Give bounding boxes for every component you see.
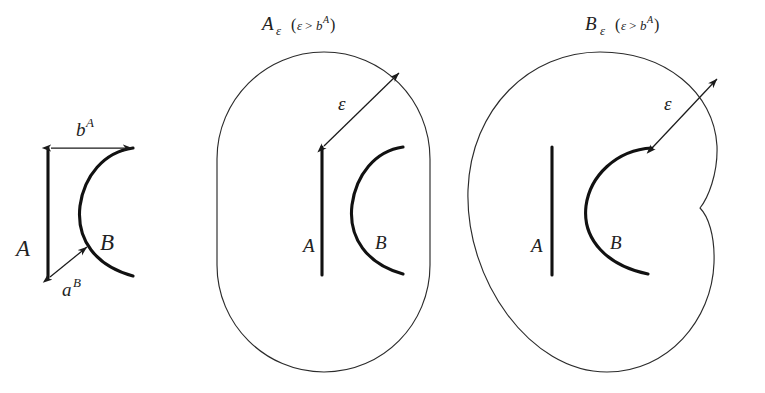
panel3-title-cond-rel: > [629,18,636,33]
panel2-title-subscript: ε [276,23,282,38]
math-diagram: A B b A a B A ε ( ε > b [0,0,765,393]
canvas-background [0,0,765,393]
panel3-title-cond-eps: ε [621,18,627,33]
panel2-title-cond-eps: ε [297,18,303,33]
panel2-title-base: A [260,13,274,34]
panel2-title-cond-sup: A [322,14,330,25]
panel2-title-paren-open: ( [291,16,296,34]
panel1-label-ab-base: a [62,279,72,300]
panel3-title-paren-open: ( [615,16,620,34]
panel2-label-epsilon: ε [338,93,346,114]
panel3-title-cond-base: b [640,18,647,33]
panel3-label-a: A [529,235,543,256]
panel3-title-subscript: ε [600,23,606,38]
panel3-title-paren-close: ) [654,16,659,34]
panel3-label-epsilon: ε [664,93,672,114]
panel1-label-ab-sup: B [73,275,81,290]
panel1-label-ba-sup: A [85,115,94,130]
panel2-label-b: B [375,232,387,253]
figure-container: A B b A a B A ε ( ε > b [0,0,765,393]
panel1-label-ba-base: b [76,119,86,140]
panel3-title-cond-sup: A [646,14,654,25]
panel1-label-b: B [100,230,114,255]
panel3-label-b: B [610,232,622,253]
panel2-label-a: A [301,235,315,256]
panel2-title-cond-rel: > [305,18,312,33]
panel3-title-base: B [585,13,597,34]
panel2-title-cond-base: b [316,18,323,33]
panel2-title-paren-close: ) [330,16,335,34]
panel1-label-a: A [14,236,31,261]
